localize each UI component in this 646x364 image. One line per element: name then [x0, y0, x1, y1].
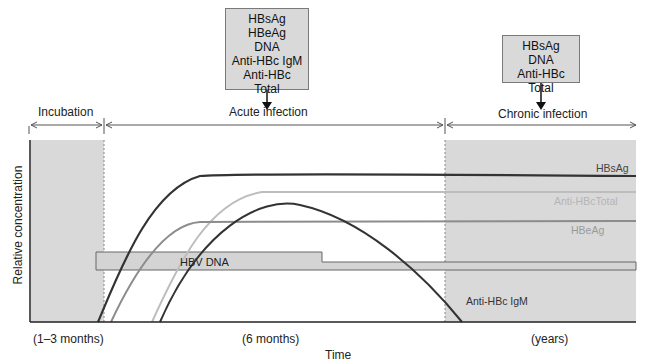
acute-infection-label: Acute infection [229, 105, 308, 119]
chronic-infection-label: Chronic infection [498, 107, 587, 121]
hbv-dna-label: HBV DNA [180, 256, 229, 268]
acute-test-item: HBsAg [230, 12, 304, 26]
acute-test-item: Anti-HBc Total [230, 68, 304, 96]
incubation-label: Incubation [38, 105, 93, 119]
acute-duration: (6 months) [242, 332, 299, 346]
incubation-shade [31, 140, 104, 322]
y-axis-label: Relative concentration [11, 155, 25, 295]
acute-test-item: Anti-HBc IgM [230, 54, 304, 68]
chronic-test-item: HBsAg [507, 39, 575, 53]
anti-hbc-igm-label: Anti-HBc IgM [466, 295, 528, 307]
anti-hbc-total-label: Anti-HBcTotal [554, 195, 618, 207]
hbeag-label: HBeAg [571, 224, 604, 236]
x-axis-label: Time [325, 348, 351, 362]
hbsag-label: HBsAg [596, 162, 629, 174]
chronic-tests-box: HBsAg DNA Anti-HBc Total [502, 35, 580, 83]
chronic-duration: (years) [531, 332, 568, 346]
chronic-test-item: Anti-HBc Total [507, 67, 575, 95]
acute-test-item: HBeAg [230, 26, 304, 40]
acute-test-item: DNA [230, 40, 304, 54]
incubation-duration: (1–3 months) [33, 332, 104, 346]
acute-tests-box: HBsAg HBeAg DNA Anti-HBc IgM Anti-HBc To… [225, 8, 309, 90]
chronic-test-item: DNA [507, 53, 575, 67]
